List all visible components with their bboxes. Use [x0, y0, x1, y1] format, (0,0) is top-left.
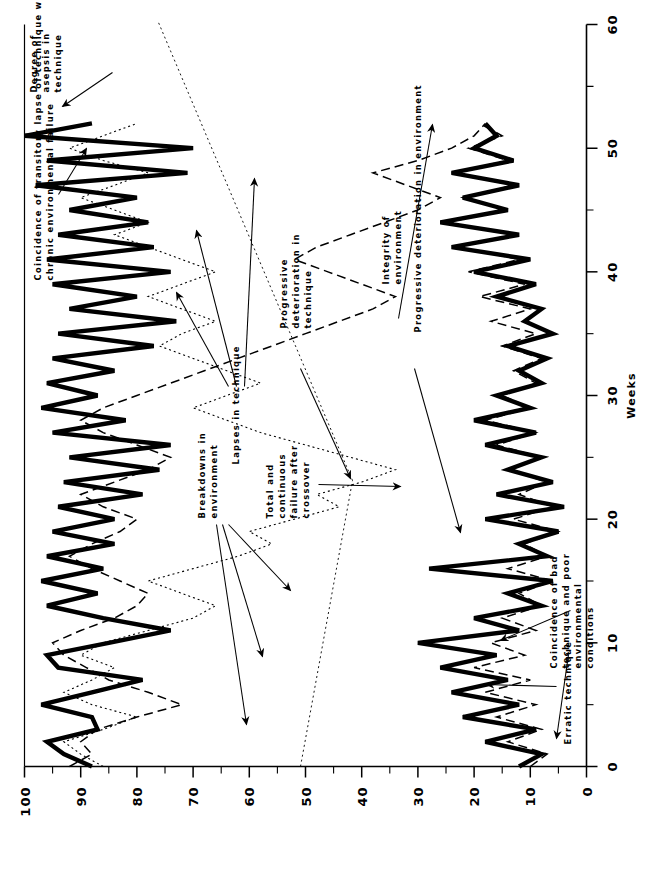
y-tick-labels: 0102030405060708090100 [17, 786, 594, 816]
y-tick-label: 60 [242, 786, 257, 806]
annotation-total-continuous-failure: Total and continuous failure after cross… [264, 440, 310, 518]
y-tick-label: 10 [523, 786, 538, 806]
y-tick-label: 70 [186, 786, 201, 806]
y-ticks [24, 766, 586, 777]
chart-plot-area: 0102030405060708090100 0102030405060 Wee… [0, 0, 649, 884]
x-tick-label: 0 [604, 761, 619, 771]
x-tick-label: 20 [604, 509, 619, 529]
x-tick-label: 50 [604, 138, 619, 158]
y-tick-label: 40 [354, 786, 369, 806]
chart-svg: 0102030405060708090100 0102030405060 Wee… [0, 0, 649, 884]
annotation-progressive-deterioration-technique: Progressive deterioration in technique [278, 229, 312, 328]
y-tick-label: 20 [467, 786, 482, 806]
annotation-lapses-in-technique: Lapses in technique [230, 345, 240, 464]
rotated-figure-group: 0102030405060708090100 0102030405060 Wee… [0, 0, 649, 884]
x-tick-label: 30 [604, 385, 619, 405]
series-deterioration-technique [63, 123, 395, 766]
x-tick-label: 10 [604, 632, 619, 652]
series-integrity-of-environment [417, 123, 563, 766]
y-tick-label: 0 [579, 786, 594, 796]
annotation-integrity-of-environment: Integrity of environment [380, 210, 402, 284]
x-tick-labels: 0102030405060 [604, 14, 619, 771]
x-axis-title: Weeks [624, 372, 637, 419]
figure-canvas: 0102030405060708090100 0102030405060 Wee… [0, 0, 649, 884]
y-tick-label: 30 [410, 786, 425, 806]
annotation-degree-of-asepsis: Degree of asepsis in technique [28, 28, 62, 92]
y-tick-label: 100 [17, 786, 32, 816]
annotation-breakdowns-in-environment: Breakdowns in environment [196, 427, 218, 518]
x-tick-label: 60 [604, 14, 619, 34]
y-tick-label: 50 [298, 786, 313, 806]
y-tick-label: 90 [73, 786, 88, 806]
annotation-progressive-deterioration-environment: Progressive deterioration in environment [412, 84, 422, 332]
y-tick-label: 80 [129, 786, 144, 806]
trend-overlays [158, 22, 352, 766]
x-tick-label: 40 [604, 261, 619, 281]
